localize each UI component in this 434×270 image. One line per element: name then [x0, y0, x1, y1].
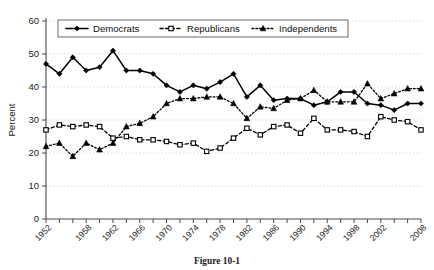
legend: DemocratsRepublicansIndependents: [58, 20, 348, 37]
x-tick-label-1962: 1962: [100, 222, 121, 243]
x-tick-label-1994: 1994: [314, 222, 335, 243]
y-tick-label-0: 0: [34, 213, 39, 224]
data-point-republicans-1966: [138, 138, 142, 142]
data-point-republicans-1960: [97, 124, 101, 128]
legend-marker-republicans: [169, 26, 173, 30]
legend-label-democrats: Democrats: [93, 23, 140, 34]
data-point-republicans-1988: [285, 123, 289, 127]
data-point-republicans-1958: [84, 123, 88, 127]
axes: [46, 18, 421, 219]
data-point-democrats-1966: [137, 68, 142, 73]
data-point-republicans-1970: [164, 139, 168, 143]
party-identification-line-chart: 0102030405060Percent19521958196219661970…: [0, 0, 434, 270]
data-point-republicans-1990: [298, 131, 302, 135]
data-point-republicans-1982: [245, 126, 249, 130]
x-tick-label-2008: 2008: [408, 222, 429, 243]
data-point-republicans-1992: [312, 116, 316, 120]
data-point-republicans-1976: [205, 149, 209, 153]
x-tick-label-1998: 1998: [341, 222, 362, 243]
figure-container: 0102030405060Percent19521958196219661970…: [0, 0, 434, 270]
data-point-independents-1996: [338, 99, 344, 104]
data-point-republicans-2008: [419, 128, 423, 132]
data-point-independents-1992: [311, 87, 317, 92]
data-point-republicans-2004: [392, 118, 396, 122]
data-point-republicans-2002: [379, 115, 383, 119]
y-tick-label-40: 40: [28, 81, 39, 92]
x-tick-label-1974: 1974: [180, 222, 201, 243]
data-point-republicans-2006: [405, 119, 409, 123]
data-point-republicans-1956: [71, 124, 75, 128]
data-point-republicans-1994: [325, 128, 329, 132]
x-tick-label-1958: 1958: [73, 222, 94, 243]
data-point-republicans-1984: [258, 133, 262, 137]
legend-label-republicans: Republicans: [187, 23, 240, 34]
data-point-republicans-1972: [178, 143, 182, 147]
data-point-democrats-1974: [191, 83, 196, 88]
x-tick-label-1990: 1990: [287, 222, 308, 243]
data-point-democrats-2006: [405, 101, 410, 106]
figure-caption: Figure 10-1: [194, 256, 240, 266]
y-tick-label-10: 10: [28, 180, 39, 191]
data-point-republicans-2000: [365, 134, 369, 138]
series-independents: [43, 81, 424, 159]
data-point-independents-2000: [365, 81, 371, 86]
data-point-republicans-1964: [124, 134, 128, 138]
data-point-independents-1972: [177, 95, 183, 100]
data-point-republicans-1998: [352, 129, 356, 133]
x-tick-label-1978: 1978: [207, 222, 228, 243]
data-point-democrats-1972: [177, 89, 182, 94]
y-axis-title: Percent: [6, 103, 17, 136]
data-point-independents-1976: [204, 94, 210, 99]
y-axis-ticks: 0102030405060: [28, 15, 46, 224]
data-point-republicans-1978: [218, 146, 222, 150]
x-tick-label-1966: 1966: [127, 222, 148, 243]
x-tick-label-1952: 1952: [33, 222, 54, 243]
data-point-republicans-1952: [44, 128, 48, 132]
data-point-democrats-2008: [418, 101, 423, 106]
x-tick-label-1986: 1986: [260, 222, 281, 243]
y-tick-label-20: 20: [28, 147, 39, 158]
y-tick-label-60: 60: [28, 15, 39, 26]
data-point-independents-1986: [271, 105, 277, 110]
data-point-republicans-1986: [271, 124, 275, 128]
data-point-independents-1958: [83, 140, 89, 145]
data-point-democrats-2002: [378, 103, 383, 108]
x-tick-label-1970: 1970: [153, 222, 174, 243]
y-tick-label-30: 30: [28, 114, 39, 125]
series-republicans: [44, 115, 423, 154]
legend-label-independents: Independents: [279, 23, 337, 34]
data-point-independents-1954: [57, 140, 63, 145]
data-point-republicans-1968: [151, 138, 155, 142]
x-axis-ticks: [46, 219, 421, 223]
x-tick-label-1982: 1982: [234, 222, 255, 243]
data-point-democrats-1992: [311, 103, 316, 108]
data-point-republicans-1996: [338, 128, 342, 132]
data-point-democrats-2004: [392, 108, 397, 113]
x-tick-label-2002: 2002: [368, 222, 389, 243]
y-tick-label-50: 50: [28, 48, 39, 59]
data-point-republicans-1974: [191, 141, 195, 145]
data-point-republicans-1954: [57, 123, 61, 127]
x-axis-labels: 1952195819621966197019741978198219861990…: [33, 222, 429, 243]
data-point-republicans-1980: [231, 136, 235, 140]
